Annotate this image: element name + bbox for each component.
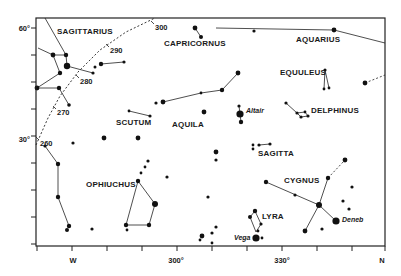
star-dot	[214, 158, 217, 161]
star-dot	[206, 195, 209, 198]
star-dot	[122, 60, 125, 63]
star-dot	[236, 71, 241, 76]
star-dot	[252, 29, 255, 32]
star-dot	[56, 162, 60, 166]
star-dot	[293, 193, 296, 196]
y-axis-label: 30°	[19, 135, 30, 144]
x-axis-label: 330°	[274, 256, 290, 265]
star-dot	[202, 110, 207, 115]
constellation-label: DELPHINUS	[311, 106, 359, 115]
star-dot	[99, 62, 103, 66]
star-dot	[261, 237, 264, 240]
constellation-label: SAGITTA	[258, 149, 294, 158]
star-dot	[58, 71, 62, 75]
ecliptic-label: 270	[57, 108, 70, 117]
star-dot	[264, 180, 268, 184]
star-dot	[259, 222, 262, 225]
star-dot	[71, 141, 74, 144]
star-dot	[136, 136, 141, 141]
star-dot	[152, 201, 158, 207]
star-dot	[67, 224, 71, 228]
star-dot	[140, 172, 143, 175]
star-dot	[316, 202, 322, 208]
star-dot	[306, 114, 309, 117]
star-dot	[237, 104, 240, 107]
star-map: SAGITTARIUSCAPRICORNUSAQUARIUSEQUULEUSDE…	[0, 0, 401, 276]
star-dot	[326, 176, 330, 180]
star-dot	[347, 207, 350, 210]
star-dot	[299, 115, 302, 118]
star-dot	[304, 111, 307, 114]
star-dot	[343, 158, 348, 163]
star-dot	[200, 92, 203, 95]
star-dot	[94, 66, 97, 69]
star-dot	[65, 228, 69, 232]
star-dot	[252, 234, 259, 241]
star-dot	[214, 150, 219, 155]
star-dot	[211, 242, 214, 245]
ecliptic-label: 300	[155, 23, 168, 32]
constellation-label: CAPRICORNUS	[164, 39, 226, 48]
star-dot	[64, 63, 70, 69]
star-dot	[332, 217, 339, 224]
star-dot	[64, 53, 68, 57]
star-dot	[257, 143, 260, 146]
star-dot	[91, 71, 94, 74]
star-dot	[248, 215, 252, 219]
star-dot	[147, 223, 151, 227]
star-dot	[57, 86, 61, 90]
constellation-label: SAGITTARIUS	[57, 27, 113, 36]
star-dot	[90, 227, 93, 230]
star-dot	[193, 26, 198, 31]
ecliptic-label: 260	[40, 139, 53, 148]
star-dot	[56, 195, 60, 199]
constellation-label: SCUTUM	[116, 118, 152, 127]
star-dot	[165, 175, 168, 178]
star-dot	[210, 231, 213, 234]
star-dot	[268, 142, 271, 145]
constellation-label: AQUARIUS	[296, 35, 341, 44]
star-dot	[323, 88, 326, 91]
star-dot	[102, 136, 107, 141]
y-axis-label: 60°	[19, 24, 30, 33]
star-dot	[320, 227, 323, 230]
star-dot	[51, 53, 56, 58]
ecliptic-label: 290	[110, 46, 123, 55]
star-dot	[200, 234, 205, 239]
star-dot	[363, 81, 368, 86]
star-dot	[328, 87, 331, 90]
star-dot	[252, 148, 255, 151]
star-dot	[154, 101, 157, 104]
constellation-label: OPHIUCHUS	[86, 180, 136, 189]
star-dot	[136, 179, 140, 183]
star-dot	[350, 185, 353, 188]
star-dot	[252, 144, 255, 147]
x-axis-label: N	[379, 256, 384, 265]
star-dot	[236, 110, 243, 117]
x-axis-label: 300°	[168, 256, 184, 265]
star-name-label: Vega	[234, 234, 251, 242]
star-dot	[239, 120, 243, 124]
constellation-label: AQUILA	[172, 120, 204, 129]
star-dot	[67, 103, 71, 107]
star-dot	[144, 166, 147, 169]
star-dot	[146, 159, 149, 162]
star-dot	[284, 101, 287, 104]
star-dot	[295, 111, 298, 114]
star-dot	[124, 223, 128, 227]
star-name-label: Deneb	[342, 216, 364, 223]
star-dot	[332, 28, 337, 33]
ecliptic-label: 280	[80, 77, 93, 86]
star-dot	[128, 110, 131, 113]
star-name-label: Altair	[245, 107, 265, 114]
star-dot	[161, 100, 166, 105]
star-dot	[126, 229, 129, 232]
star-dot	[257, 230, 260, 233]
constellation-label: EQUULEUS	[280, 68, 327, 77]
constellation-label: CYGNUS	[284, 176, 320, 185]
star-dot	[253, 209, 257, 213]
star-dot	[341, 199, 344, 202]
star-dot	[214, 225, 217, 228]
star-dot	[303, 229, 308, 234]
star-dot	[220, 88, 224, 92]
